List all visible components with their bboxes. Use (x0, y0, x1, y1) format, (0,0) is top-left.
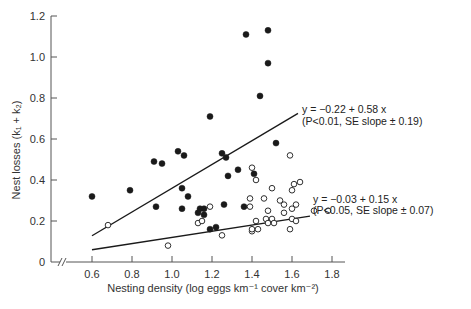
x-tick-label: 1.8 (324, 268, 339, 280)
filled-data-point (179, 206, 185, 212)
upper-regression-equation: y = −0.22 + 0.58 x (302, 103, 387, 115)
filled-data-point (201, 206, 207, 212)
x-tick-label: 1.6 (284, 268, 299, 280)
filled-data-point (265, 27, 271, 33)
filled-data-point (225, 173, 231, 179)
filled-data-point (185, 193, 191, 199)
open-data-point (271, 220, 277, 226)
filled-data-point (127, 187, 133, 193)
filled-data-point (181, 152, 187, 158)
filled-data-point (251, 171, 257, 177)
open-data-point (293, 202, 299, 208)
y-tick-label: 1.2 (30, 10, 45, 22)
filled-data-point (207, 226, 213, 232)
filled-data-point (221, 202, 227, 208)
filled-data-point (273, 140, 279, 146)
filled-data-point (265, 60, 271, 66)
open-data-point (261, 196, 267, 202)
filled-data-point (235, 167, 241, 173)
open-data-point (287, 153, 293, 159)
open-data-point (165, 243, 171, 249)
upper-regression-stats: (P<0.01, SE slope ± 0.19) (302, 115, 422, 127)
y-tick-label: 1.0 (30, 51, 45, 63)
filled-data-point (179, 185, 185, 191)
open-data-point (247, 196, 253, 202)
y-tick-label: 0.2 (30, 215, 45, 227)
x-tick-label: 1.4 (244, 268, 259, 280)
open-data-point (249, 226, 255, 232)
scatter-chart: 00.20.40.60.81.01.20.60.81.01.21.41.61.8… (0, 0, 471, 309)
open-data-point (281, 202, 287, 208)
lower-regression-stats: (P<0.05, SE slope ± 0.07) (313, 204, 433, 216)
open-data-point (253, 177, 259, 183)
open-data-point (293, 218, 299, 224)
filled-data-point (257, 93, 263, 99)
filled-data-point (213, 224, 219, 230)
filled-data-point (243, 31, 249, 37)
axis-break-mark (62, 258, 66, 266)
open-data-point (255, 226, 261, 232)
open-data-point (249, 165, 255, 171)
y-tick-label: 0.6 (30, 133, 45, 145)
filled-data-point (201, 212, 207, 218)
open-data-point (289, 187, 295, 193)
open-data-point (281, 210, 287, 216)
open-data-point (253, 218, 259, 224)
open-data-point (105, 222, 111, 228)
open-data-point (297, 179, 303, 185)
filled-data-point (223, 154, 229, 160)
filled-data-point (153, 204, 159, 210)
open-data-point (265, 208, 271, 214)
filled-data-point (151, 159, 157, 165)
open-data-point (291, 181, 297, 187)
y-tick-label: 0 (39, 256, 45, 268)
open-data-point (219, 233, 225, 239)
filled-data-point (89, 193, 95, 199)
open-data-point (207, 204, 213, 210)
filled-data-point (207, 113, 213, 119)
open-data-point (199, 218, 205, 224)
y-axis-title: Nest losses (k₁ + k₂) (10, 101, 22, 200)
open-data-point (265, 220, 271, 226)
axis-ticks: 00.20.40.60.81.01.20.60.81.01.21.41.61.8 (30, 10, 340, 280)
x-tick-label: 1.2 (204, 268, 219, 280)
axes (51, 16, 345, 266)
x-tick-label: 0.6 (84, 268, 99, 280)
open-data-point (287, 226, 293, 232)
y-tick-label: 0.8 (30, 92, 45, 104)
open-data-point (247, 204, 253, 210)
x-tick-label: 1.0 (164, 268, 179, 280)
filled-data-point (175, 148, 181, 154)
x-axis-title: Nesting density (log eggs km⁻¹ cover km⁻… (107, 282, 319, 294)
regression-lines (92, 113, 310, 249)
filled-data-point (241, 204, 247, 210)
y-tick-label: 0.4 (30, 174, 45, 186)
x-tick-label: 0.8 (124, 268, 139, 280)
filled-data-point (159, 161, 165, 167)
open-data-point (269, 185, 275, 191)
